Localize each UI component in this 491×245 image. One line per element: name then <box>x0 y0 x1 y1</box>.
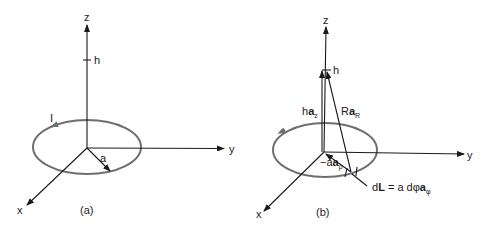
h-label: h <box>333 64 339 76</box>
caption-b: (b) <box>316 206 329 218</box>
neg-a-arho-label: −aaρ <box>320 156 343 171</box>
x-axis-label: x <box>256 208 262 220</box>
current-label: I <box>50 112 53 124</box>
R-aR-label: RaR <box>341 105 360 119</box>
z-axis <box>324 27 326 152</box>
dL-tick-right <box>356 167 357 176</box>
y-axis <box>87 148 224 149</box>
y-axis <box>324 152 464 154</box>
dL-equation-label: dL = a dφaφ <box>372 181 431 196</box>
radius-vector <box>87 148 110 171</box>
radius-label: a <box>100 152 107 164</box>
figure-canvas: z h y x I a (a) z h y x haz RaR <box>0 0 491 245</box>
panel-b: z h y x haz RaR −aaρ dL = a dφaφ (b) <box>256 14 473 220</box>
h-label: h <box>94 54 100 66</box>
current-direction-arrow-icon <box>281 130 285 132</box>
dL-leader-line <box>352 174 367 186</box>
current-loop <box>273 123 377 177</box>
current-direction-arrow-icon <box>54 124 58 126</box>
x-axis-label: x <box>17 204 23 216</box>
z-axis-label: z <box>323 14 329 26</box>
caption-a: (a) <box>80 204 93 216</box>
y-axis-label: y <box>229 143 235 155</box>
x-axis <box>264 152 324 211</box>
y-axis-label: y <box>467 149 473 161</box>
panel-a: z h y x I a (a) <box>17 11 235 216</box>
h-az-label: haz <box>302 105 318 119</box>
z-axis-label: z <box>84 11 90 23</box>
